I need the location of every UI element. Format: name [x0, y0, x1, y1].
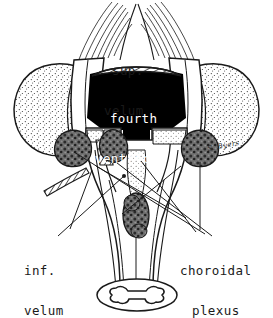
label-inf-velum-line1: inf.: [24, 264, 64, 277]
label-inf-velum-line2: velum: [24, 304, 64, 317]
label-sup-velum-line1: sup.: [112, 64, 144, 77]
label-fourth-ventricle-line2: ventricle: [95, 152, 166, 165]
label-fourth-ventricle-line1: fourth: [101, 112, 166, 125]
spinal-cord-cross-section: [97, 279, 177, 311]
anatomical-figure: sup. velum fourth ventricle inf. velum c…: [0, 0, 273, 318]
label-choroidal-plexus-line1: choroidal: [180, 264, 251, 277]
label-choroidal-plexus: choroidal plexus: [180, 238, 251, 318]
label-inf-velum: inf. velum: [24, 238, 64, 318]
label-choroidal-plexus-line2: plexus: [192, 304, 251, 317]
label-fourth-ventricle: fourth ventricle: [101, 86, 166, 191]
